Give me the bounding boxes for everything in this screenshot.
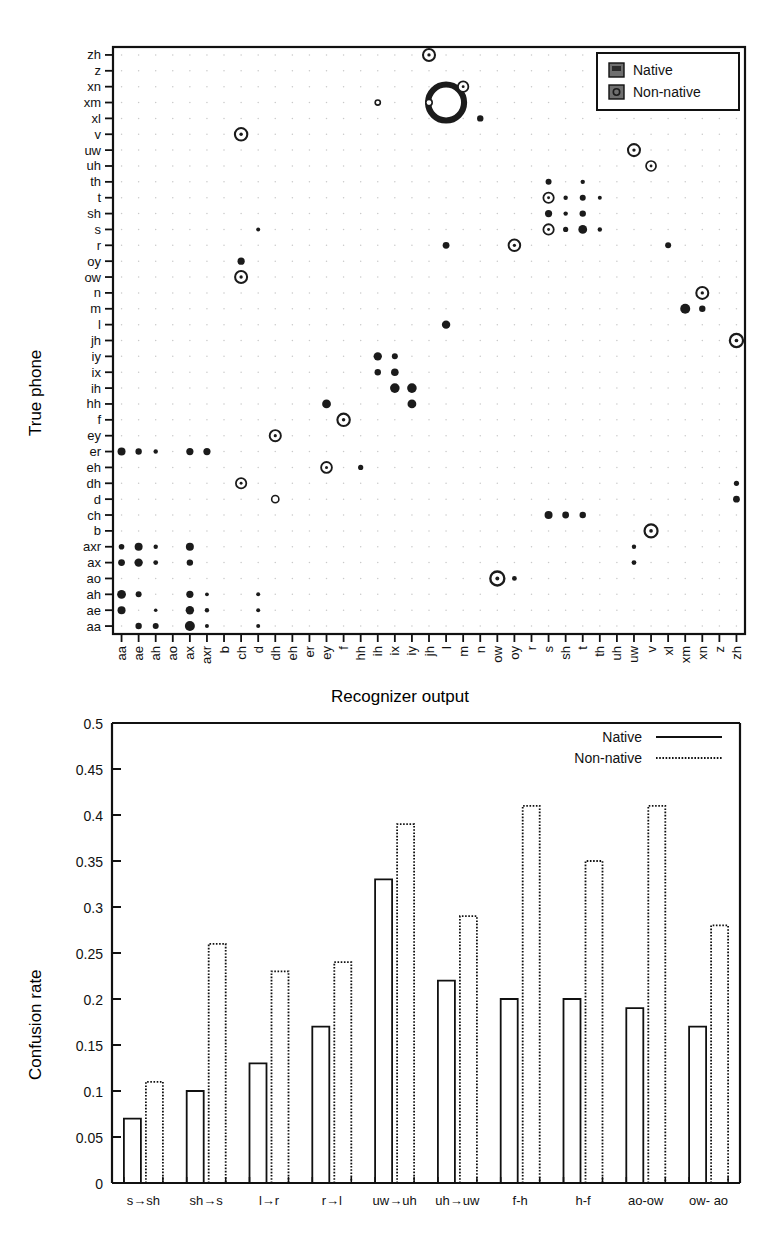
grid-dot <box>633 165 635 167</box>
grid-dot <box>719 308 721 310</box>
grid-dot <box>223 276 225 278</box>
grid-dot <box>616 324 618 326</box>
grid-dot <box>206 340 208 342</box>
grid-dot <box>428 546 430 548</box>
grid-dot <box>138 467 140 469</box>
grid-dot <box>684 229 686 231</box>
grid-dot <box>565 578 567 580</box>
point-native <box>238 258 245 265</box>
grid-dot <box>292 245 294 247</box>
legend-glyph-native <box>612 66 621 71</box>
grid-dot <box>616 340 618 342</box>
point-native <box>135 623 141 629</box>
grid-dot <box>360 387 362 389</box>
grid-dot <box>240 625 242 627</box>
grid-dot <box>223 609 225 611</box>
grid-dot <box>172 134 174 136</box>
grid-dot <box>565 467 567 469</box>
grid-dot <box>719 562 721 564</box>
grid-dot <box>497 70 499 72</box>
y-tick-label: n <box>94 285 101 300</box>
grid-dot <box>172 387 174 389</box>
grid-dot <box>616 403 618 405</box>
grid-dot <box>292 578 294 580</box>
grid-dot <box>155 229 157 231</box>
grid-dot <box>445 356 447 358</box>
y-tick-label: d <box>94 492 101 507</box>
grid-dot <box>531 578 533 580</box>
point-nonnative-core <box>239 275 242 278</box>
grid-dot <box>275 197 277 199</box>
grid-dot <box>633 118 635 120</box>
grid-dot <box>462 356 464 358</box>
grid-dot <box>292 118 294 120</box>
grid-dot <box>240 609 242 611</box>
grid-dot <box>394 578 396 580</box>
grid-dot <box>377 260 379 262</box>
point-native <box>563 211 567 215</box>
grid-dot <box>411 149 413 151</box>
grid-dot <box>240 530 242 532</box>
grid-dot <box>497 276 499 278</box>
bar-native <box>375 879 392 1183</box>
grid-dot <box>411 292 413 294</box>
grid-dot <box>514 340 516 342</box>
grid-dot <box>292 562 294 564</box>
grid-dot <box>257 86 259 88</box>
grid-dot <box>462 181 464 183</box>
grid-dot <box>411 451 413 453</box>
grid-dot <box>548 594 550 596</box>
grid-dot <box>599 625 601 627</box>
grid-dot <box>223 546 225 548</box>
grid-dot <box>326 229 328 231</box>
y-tick-label: axr <box>83 539 102 554</box>
grid-dot <box>565 260 567 262</box>
grid-dot <box>702 134 704 136</box>
grid-dot <box>343 340 345 342</box>
grid-dot <box>155 324 157 326</box>
grid-dot <box>326 86 328 88</box>
grid-dot <box>582 467 584 469</box>
grid-dot <box>343 134 345 136</box>
x-tick-label: z <box>712 646 727 653</box>
grid-dot <box>599 498 601 500</box>
grid-dot <box>514 86 516 88</box>
grid-dot <box>565 149 567 151</box>
y-tick-label: th <box>90 174 101 189</box>
grid-dot <box>309 102 311 104</box>
grid-dot <box>121 435 123 437</box>
grid-dot <box>514 498 516 500</box>
grid-dot <box>650 308 652 310</box>
grid-dot <box>360 594 362 596</box>
grid-dot <box>514 276 516 278</box>
grid-dot <box>360 403 362 405</box>
grid-dot <box>599 181 601 183</box>
grid-dot <box>445 435 447 437</box>
grid-dot <box>428 308 430 310</box>
grid-dot <box>684 181 686 183</box>
grid-dot <box>497 102 499 104</box>
grid-dot <box>411 419 413 421</box>
point-native <box>203 448 210 455</box>
grid-dot <box>497 467 499 469</box>
grid-dot <box>531 403 533 405</box>
grid-dot <box>189 197 191 199</box>
grid-dot <box>462 213 464 215</box>
grid-dot <box>411 102 413 104</box>
grid-dot <box>240 403 242 405</box>
point-nonnative <box>375 100 380 105</box>
grid-dot <box>548 609 550 611</box>
grid-dot <box>462 134 464 136</box>
grid-dot <box>479 102 481 104</box>
grid-dot <box>650 594 652 596</box>
grid-dot <box>719 498 721 500</box>
legend-label: Non-native <box>633 84 701 100</box>
grid-dot <box>189 530 191 532</box>
grid-dot <box>411 356 413 358</box>
grid-dot <box>240 229 242 231</box>
grid-dot <box>633 276 635 278</box>
bar-y-tick-label: 0.15 <box>76 1038 103 1054</box>
grid-dot <box>702 260 704 262</box>
grid-dot <box>514 530 516 532</box>
grid-dot <box>736 213 738 215</box>
